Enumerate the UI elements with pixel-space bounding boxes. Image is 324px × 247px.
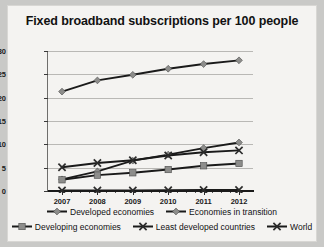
y-tick-label: 0 xyxy=(0,187,6,196)
y-tick-label: 10 xyxy=(0,140,6,149)
series-developed-economies xyxy=(59,57,243,95)
series-world xyxy=(58,147,242,171)
y-tick-label: 15 xyxy=(0,117,6,126)
chart-legend: Developed economiesEconomies in transiti… xyxy=(8,204,316,234)
cross-marker-icon xyxy=(133,221,153,232)
series-line xyxy=(62,163,239,179)
y-tick-label: 30 xyxy=(0,47,6,56)
data-point-diamond xyxy=(173,208,180,215)
legend-item-label: Developing economies xyxy=(35,222,121,232)
data-point-diamond xyxy=(200,61,207,68)
square-marker-icon xyxy=(12,221,32,232)
data-point-square xyxy=(19,223,25,229)
legend-item-label: Least developed countries xyxy=(156,222,255,232)
series-line xyxy=(62,60,239,91)
series-line xyxy=(62,142,239,179)
data-point-square xyxy=(94,172,100,178)
data-point-square xyxy=(130,170,136,176)
data-point-diamond xyxy=(94,77,101,84)
legend-item[interactable]: Economies in transition xyxy=(166,206,277,217)
y-tick-label: 25 xyxy=(0,70,6,79)
data-point-diamond xyxy=(54,208,61,215)
chart-title: Fixed broadband subscriptions per 100 pe… xyxy=(8,14,316,28)
legend-item[interactable]: Developing economies xyxy=(12,221,121,232)
legend-item[interactable]: World xyxy=(267,221,312,232)
diamond-marker-icon xyxy=(166,206,186,217)
chart-figure: Fixed broadband subscriptions per 100 pe… xyxy=(8,6,316,241)
legend-item-label: Economies in transition xyxy=(189,207,277,217)
cross-marker-icon xyxy=(267,221,287,232)
data-point-diamond xyxy=(165,65,172,72)
data-point-square xyxy=(165,166,171,172)
legend-item-label: World xyxy=(290,222,312,232)
plot-area: 051015202530 200720082009201020112012 xyxy=(48,51,253,191)
data-point-diamond xyxy=(129,71,136,78)
series-least-developed-countries xyxy=(58,186,242,193)
legend-item-label: Developed economies xyxy=(70,207,154,217)
data-point-square xyxy=(200,163,206,169)
legend-item[interactable]: Least developed countries xyxy=(133,221,255,232)
data-point-diamond xyxy=(59,88,66,95)
legend-item[interactable]: Developed economies xyxy=(47,206,154,217)
series-lines xyxy=(48,51,254,193)
data-point-square xyxy=(236,160,242,166)
data-point-square xyxy=(59,177,65,183)
y-tick-label: 5 xyxy=(0,163,6,172)
legend-row-2: Developing economiesLeast developed coun… xyxy=(8,219,316,234)
legend-row-1: Developed economiesEconomies in transiti… xyxy=(8,204,316,219)
y-tick-label: 20 xyxy=(0,93,6,102)
diamond-marker-icon xyxy=(47,206,67,217)
data-point-diamond xyxy=(236,57,243,64)
data-point-diamond xyxy=(236,139,243,146)
